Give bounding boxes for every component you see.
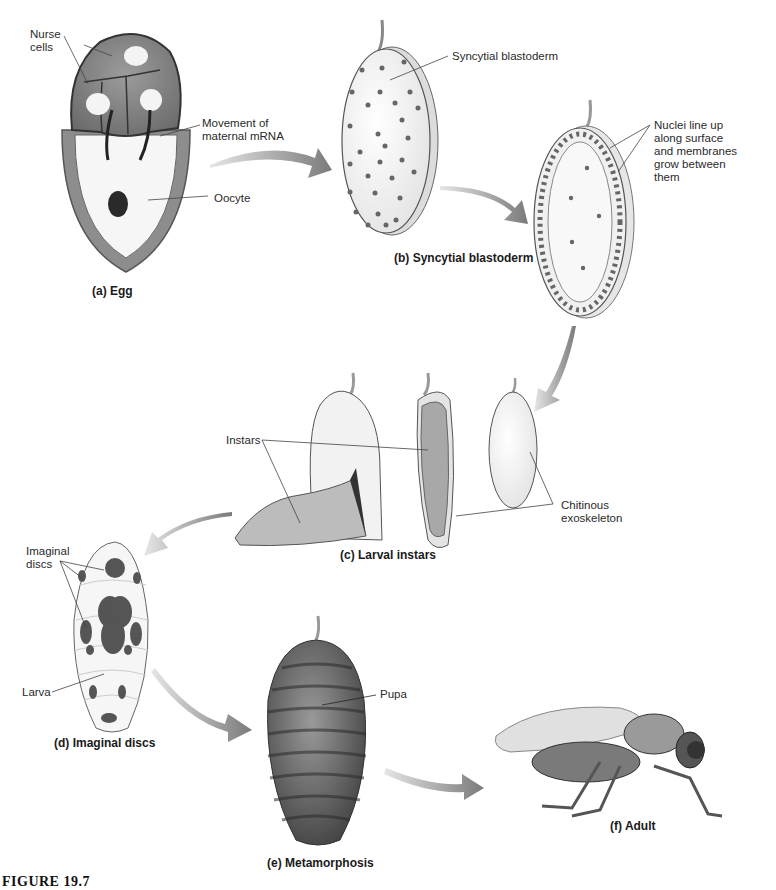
label-chitinous-exoskeleton: Chitinous exoskeleton xyxy=(561,499,622,525)
syncytial-blastoderm-illustration xyxy=(342,20,448,235)
arrow-to-larval-instars xyxy=(534,326,576,412)
label-nuclei-line-up: Nuclei line up along surface and membran… xyxy=(654,119,737,184)
figure-number: FIGURE 19.7 xyxy=(2,874,90,890)
label-maternal-mrna: Movement of maternal mRNA xyxy=(202,117,284,143)
arrow-to-imaginal-discs xyxy=(144,512,232,556)
caption-adult: (f) Adult xyxy=(610,819,656,833)
adult-fly-illustration xyxy=(495,707,722,816)
label-syncytial-blastoderm: Syncytial blastoderm xyxy=(452,50,558,63)
label-oocyte: Oocyte xyxy=(214,192,250,205)
label-pupa: Pupa xyxy=(380,688,407,701)
label-instars: Instars xyxy=(226,434,261,447)
arrow-to-adult xyxy=(384,768,484,800)
arrow-to-metamorphosis xyxy=(151,668,252,742)
caption-egg: (a) Egg xyxy=(92,284,133,298)
larval-instars-illustration xyxy=(235,373,553,548)
egg-illustration xyxy=(62,34,208,272)
cellular-blastoderm-illustration xyxy=(534,100,650,318)
pupa-illustration xyxy=(268,616,376,845)
label-imaginal-discs: Imaginal discs xyxy=(26,545,69,571)
label-nurse-cells: Nurse cells xyxy=(30,28,61,54)
caption-metamorphosis: (e) Metamorphosis xyxy=(267,856,374,870)
arrow-b-to-nuclei xyxy=(440,186,528,224)
label-larva: Larva xyxy=(22,686,51,699)
caption-larval-instars: (c) Larval instars xyxy=(340,548,436,562)
caption-syncytial-blastoderm: (b) Syncytial blastoderm xyxy=(394,251,533,265)
arrow-a-to-b xyxy=(210,148,332,178)
caption-imaginal-discs: (d) Imaginal discs xyxy=(54,736,155,750)
